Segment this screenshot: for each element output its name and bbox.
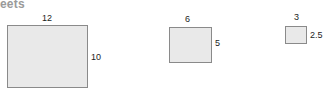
dimension-label-figure-1-height: 10	[91, 52, 101, 62]
dimension-label-figure-1-width: 12	[42, 13, 52, 23]
dimension-label-figure-2-height: 5	[215, 38, 220, 48]
dimension-label-figure-2-width: 6	[185, 14, 190, 24]
dimension-label-figure-3-height: 2.5	[310, 30, 323, 40]
diagram-canvas: eets 12 10 6 5 3 2.5	[0, 0, 330, 96]
rectangle-figure-3	[285, 26, 307, 44]
rectangle-figure-2	[169, 27, 212, 63]
dimension-label-figure-3-width: 3	[294, 12, 299, 22]
rectangle-figure-1	[7, 25, 88, 88]
breadcrumb-fragment: eets	[0, 0, 25, 11]
